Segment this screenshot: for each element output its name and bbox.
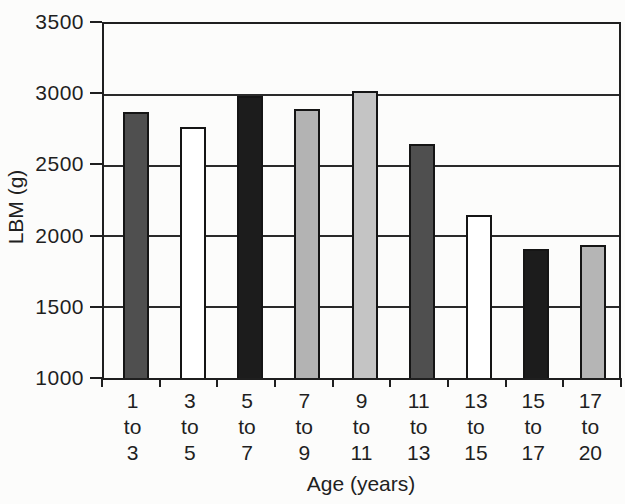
y-tick-mark-3000	[90, 92, 102, 94]
x-category-label-3-to-5: 3 to 5	[161, 388, 218, 466]
x-tick-mark-4	[332, 378, 334, 387]
y-tick-mark-1500	[90, 306, 102, 308]
x-tick-mark-5	[389, 378, 391, 387]
x-category-label-1-to-3: 1 to 3	[104, 388, 161, 466]
bar-9-to-11	[352, 91, 378, 378]
bar-7-to-9	[294, 109, 320, 378]
y-tick-label-1000: 1000	[22, 367, 84, 389]
y-tick-mark-2500	[90, 163, 102, 165]
x-tick-mark-3	[274, 378, 276, 387]
bar-1-to-3	[123, 112, 149, 378]
bar-11-to-13	[409, 144, 435, 378]
x-tick-mark-6	[447, 378, 449, 387]
y-tick-label-1500: 1500	[22, 296, 84, 318]
x-tick-mark-7	[505, 378, 507, 387]
bar-17-to-20	[580, 245, 606, 378]
y-tick-mark-2000	[90, 235, 102, 237]
x-tick-mark-2	[216, 378, 218, 387]
x-tick-mark-1	[159, 378, 161, 387]
x-tick-mark-0	[101, 378, 103, 387]
x-category-label-5-to-7: 5 to 7	[218, 388, 275, 466]
x-category-label-7-to-9: 7 to 9	[276, 388, 333, 466]
x-tick-mark-8	[562, 378, 564, 387]
y-tick-label-2500: 2500	[22, 153, 84, 175]
bar-chart-figure: LBM (g) 100015002000250030003500 1 to 33…	[0, 0, 625, 504]
bar-15-to-17	[523, 249, 549, 378]
bar-5-to-7	[237, 96, 263, 378]
y-tick-mark-3500	[90, 21, 102, 23]
x-category-label-11-to-13: 11 to 13	[390, 388, 447, 466]
y-tick-label-2000: 2000	[22, 225, 84, 247]
x-category-label-17-to-20: 17 to 20	[562, 388, 619, 466]
x-category-label-15-to-17: 15 to 17	[505, 388, 562, 466]
x-category-label-13-to-15: 13 to 15	[447, 388, 504, 466]
x-axis-title: Age (years)	[307, 472, 416, 496]
bar-3-to-5	[180, 127, 206, 378]
y-tick-label-3500: 3500	[22, 11, 84, 33]
plot-area	[102, 22, 621, 380]
bar-13-to-15	[466, 215, 492, 378]
x-category-label-9-to-11: 9 to 11	[333, 388, 390, 466]
x-tick-mark-9	[620, 378, 622, 387]
y-tick-label-3000: 3000	[22, 82, 84, 104]
